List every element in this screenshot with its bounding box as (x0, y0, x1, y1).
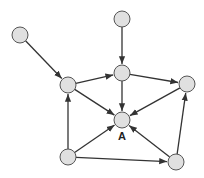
edge-n_right-to-A (130, 88, 180, 116)
node-label-a: A (118, 130, 126, 142)
edge-n_botright-to-n_right (177, 93, 186, 154)
node-a (114, 112, 130, 128)
directed-graph: A (0, 0, 204, 178)
edge-n_midleft-to-n_uppermid (76, 75, 113, 83)
edge-n_topleft-to-n_midleft (26, 41, 62, 79)
edge-n_uppermid-to-n_right (130, 74, 178, 82)
node-n_top (114, 11, 130, 27)
edge-n_botright-to-A (129, 126, 170, 158)
nodes-group (12, 11, 195, 170)
node-n_right (179, 76, 195, 92)
node-n_uppermid (114, 65, 130, 81)
edges-group (26, 27, 186, 162)
node-n_topleft (12, 27, 28, 43)
edge-n_botleft-to-A (75, 125, 115, 152)
edge-n_botleft-to-n_botright (76, 157, 167, 161)
node-n_midleft (60, 77, 76, 93)
edge-n_midleft-to-A (75, 89, 115, 115)
node-n_botright (168, 154, 184, 170)
node-n_botleft (60, 149, 76, 165)
